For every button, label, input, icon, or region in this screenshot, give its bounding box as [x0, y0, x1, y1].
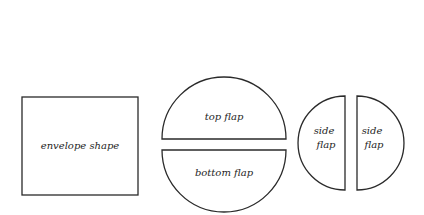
top-flap-label: top flap	[205, 111, 244, 122]
top-flap: top flap	[162, 77, 286, 139]
side-flap-right-label-line1: side	[362, 125, 383, 136]
side-flap-left-label-line2: flap	[315, 139, 336, 150]
side-flap-right: side flap	[357, 96, 404, 190]
envelope-shape: envelope shape	[22, 97, 138, 195]
envelope-shape-label: envelope shape	[41, 140, 120, 151]
bottom-flap: bottom flap	[162, 150, 286, 212]
bottom-flap-label: bottom flap	[195, 167, 254, 178]
side-flap-left: side flap	[298, 96, 345, 190]
envelope-template-diagram: envelope shape top flap bottom flap side…	[0, 0, 424, 215]
side-flap-left-label-line1: side	[314, 125, 335, 136]
side-flap-right-label-line2: flap	[363, 139, 384, 150]
